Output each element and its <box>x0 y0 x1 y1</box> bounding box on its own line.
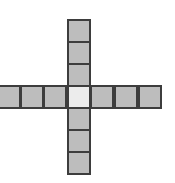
grid-cell-down-1 <box>67 107 91 131</box>
grid-cell-left-2 <box>20 85 44 109</box>
grid-cell-down-2 <box>67 129 91 153</box>
grid-cell-right-3 <box>138 85 162 109</box>
center-cell <box>67 85 91 109</box>
grid-cell-up-3 <box>67 19 91 43</box>
grid-cell-right-1 <box>90 85 114 109</box>
grid-cell-up-1 <box>67 63 91 87</box>
grid-cell-left-1 <box>43 85 67 109</box>
grid-cell-right-2 <box>114 85 138 109</box>
grid-cell-left-3 <box>0 85 21 109</box>
grid-cell-down-3 <box>67 151 91 175</box>
grid-cell-up-2 <box>67 41 91 65</box>
